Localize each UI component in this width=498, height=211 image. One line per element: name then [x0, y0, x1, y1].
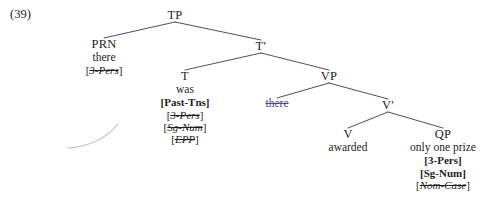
node-vp: VP [321, 69, 337, 83]
branch-vbar-v [348, 112, 388, 128]
node-v: V awarded [329, 127, 368, 154]
node-qp-word: only one prize [410, 141, 476, 154]
node-tp-label: TP [168, 8, 183, 22]
branch-vbar-qp [388, 112, 443, 128]
branch-tbar-t [185, 53, 261, 70]
node-qp-feature-1: [Sg-Num] [410, 167, 476, 179]
node-v-word: awarded [329, 141, 368, 154]
node-prn: PRN there [3-Pers] [86, 37, 123, 77]
node-vp-label: VP [321, 69, 337, 83]
node-v-label: V [329, 127, 368, 141]
node-qp-feature-2: [Nom-Case] [410, 179, 476, 191]
node-t-feature-3: [EPP] [161, 133, 210, 145]
branch-tp-tbar [175, 22, 261, 40]
node-prn-feature-0: [3-Pers] [86, 64, 123, 76]
node-t-bar: T′ [256, 39, 267, 53]
node-t-word: was [161, 83, 210, 96]
node-t-feature-1: [3-Pers] [161, 109, 210, 121]
node-qp: QP only one prize [3-Pers] [Sg-Num] [Nom… [410, 127, 476, 191]
node-t: T was [Past-Tns] [3-Pers] [Sg-Num] [EPP] [161, 69, 210, 146]
node-qp-label: QP [410, 127, 476, 141]
branch-vp-vbar [329, 83, 388, 99]
node-prn-label: PRN [86, 37, 123, 51]
branch-tp-prn [104, 22, 175, 38]
syntax-tree-figure: (39) TP PRN there [3-Pers] T′ T [0, 0, 498, 211]
node-v-bar-label: V′ [382, 98, 394, 112]
node-t-bar-label: T′ [256, 39, 267, 53]
branch-tbar-vp [261, 53, 329, 70]
node-tp: TP [168, 8, 183, 22]
node-qp-feature-0: [3-Pers] [410, 154, 476, 166]
node-vp-trace-word: there [266, 97, 289, 110]
node-t-feature-0: [Past-Tns] [161, 96, 210, 108]
node-t-feature-2: [Sg-Num] [161, 121, 210, 133]
node-prn-word: there [86, 51, 123, 64]
movement-arc [68, 124, 118, 148]
node-v-bar: V′ [382, 98, 394, 112]
branch-vp-trace [277, 83, 329, 98]
node-t-label: T [161, 69, 210, 83]
node-vp-trace: there [266, 97, 289, 110]
